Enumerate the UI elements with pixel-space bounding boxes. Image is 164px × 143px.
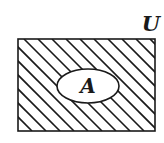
universal-set-label: U	[142, 11, 162, 36]
set-a-label: A	[78, 74, 96, 98]
venn-diagram: A U	[0, 0, 164, 143]
